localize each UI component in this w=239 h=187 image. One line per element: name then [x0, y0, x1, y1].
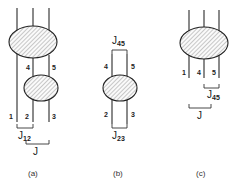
interaction-blob [103, 75, 137, 101]
panel-caption: (c) [196, 169, 206, 178]
line-label: 4 [104, 63, 108, 70]
panel-a: 4 5 1 2 3 J12 J (a) [9, 8, 58, 178]
line-label: 5 [52, 64, 56, 71]
line-label: 5 [131, 63, 135, 70]
panel-b: J45 4 5 2 3 J23 (b) [103, 35, 137, 178]
coupling-label-j: J [197, 110, 202, 121]
coupling-bracket-j45 [112, 50, 127, 54]
coupling-label-j12: J12 [18, 130, 31, 142]
panel-caption: (b) [113, 169, 123, 178]
coupling-bracket-j [189, 104, 211, 108]
line-label: 3 [131, 111, 135, 118]
interaction-blob-lower [24, 75, 58, 101]
interaction-blob-upper [9, 26, 57, 58]
panel-caption: (a) [28, 169, 38, 178]
coupling-bracket-j12 [17, 124, 33, 128]
interaction-blob [180, 27, 228, 59]
coupling-bracket-j45 [204, 84, 219, 88]
line-label: 5 [212, 69, 216, 76]
panel-c: 1 4 5 J45 J (c) [180, 10, 228, 178]
line-label: 1 [182, 69, 186, 76]
line-label: 2 [104, 111, 108, 118]
line-label: 4 [26, 64, 30, 71]
line-label: 3 [52, 113, 56, 120]
coupling-label-j45: J45 [207, 89, 220, 101]
line-label: 2 [25, 113, 29, 120]
angular-momentum-coupling-diagram: 4 5 1 2 3 J12 J (a) J45 4 5 2 3 J23 (b) … [0, 0, 239, 187]
coupling-bracket-j23 [112, 124, 127, 128]
line-label: 4 [197, 69, 201, 76]
coupling-label-j45: J45 [112, 35, 125, 47]
coupling-label-j: J [33, 146, 38, 157]
coupling-label-j23: J23 [112, 130, 125, 142]
line-label: 1 [9, 113, 13, 120]
